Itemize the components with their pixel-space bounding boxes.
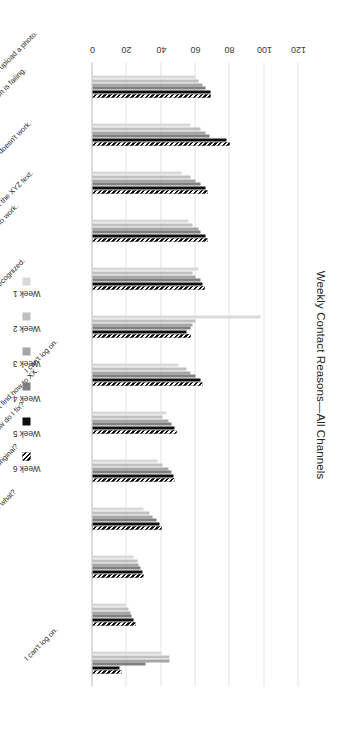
bar xyxy=(92,79,198,82)
bar-group xyxy=(92,62,298,110)
legend-item[interactable]: Week 1 xyxy=(12,277,40,298)
bar xyxy=(92,182,200,185)
bar xyxy=(92,127,200,130)
legend-label: Week 1 xyxy=(12,289,40,298)
value-tick-label: 120 xyxy=(290,44,305,54)
bar-group xyxy=(92,110,298,158)
bar xyxy=(92,555,133,558)
bar xyxy=(92,670,121,673)
legend-swatch-icon xyxy=(22,417,30,425)
bar xyxy=(92,622,135,625)
legend-label: Week 4 xyxy=(12,394,40,403)
bar-group xyxy=(92,398,298,446)
legend-swatch-icon xyxy=(22,382,30,390)
bar xyxy=(92,175,190,178)
bar-group xyxy=(92,542,298,590)
bar xyxy=(92,611,130,614)
chart-title: Weekly Contact Reasons—All Channels xyxy=(314,0,326,749)
legend-item[interactable]: Week 6 xyxy=(12,452,40,473)
bar xyxy=(92,511,149,514)
legend-label: Week 2 xyxy=(12,324,40,333)
bar xyxy=(92,134,209,137)
bar xyxy=(92,430,176,433)
bar xyxy=(92,651,161,654)
bar xyxy=(92,378,200,381)
legend-item[interactable]: Week 2 xyxy=(12,312,40,333)
bar xyxy=(92,271,192,274)
legend-swatch-icon xyxy=(22,277,30,285)
bar xyxy=(92,526,161,529)
bar xyxy=(92,467,168,470)
bar xyxy=(92,666,119,669)
bar xyxy=(92,419,168,422)
bar xyxy=(92,607,128,610)
bar-group xyxy=(92,158,298,206)
legend-swatch-icon xyxy=(22,452,30,460)
bar xyxy=(92,219,188,222)
bar xyxy=(92,566,140,569)
bar xyxy=(92,223,192,226)
bar xyxy=(92,459,157,462)
bar xyxy=(92,367,186,370)
bar xyxy=(92,230,200,233)
legend-item[interactable]: Week 5 xyxy=(12,417,40,438)
legend-swatch-icon xyxy=(22,347,30,355)
bar xyxy=(92,426,174,429)
legend-item[interactable]: Week 4 xyxy=(12,382,40,403)
bar xyxy=(92,371,190,374)
bar xyxy=(92,83,202,86)
bar xyxy=(92,94,210,97)
bar xyxy=(92,563,138,566)
bar xyxy=(92,278,200,281)
bar xyxy=(92,507,144,510)
bar xyxy=(92,515,152,518)
bar-group xyxy=(92,350,298,398)
bar-group xyxy=(92,206,298,254)
bar xyxy=(92,374,195,377)
bar xyxy=(92,315,260,318)
value-tick-label: 100 xyxy=(256,44,271,54)
bar xyxy=(92,179,195,182)
bar xyxy=(92,330,186,333)
bar xyxy=(92,142,229,145)
legend-item[interactable]: Week 3 xyxy=(12,347,40,368)
bar-group xyxy=(92,302,298,350)
bar-group xyxy=(92,446,298,494)
value-tick-label: 60 xyxy=(190,44,200,54)
bar xyxy=(92,326,190,329)
bar xyxy=(92,655,169,658)
bar xyxy=(92,275,195,278)
legend-label: Week 6 xyxy=(12,464,40,473)
bar xyxy=(92,603,125,606)
bar xyxy=(92,186,205,189)
bar xyxy=(92,363,178,366)
bar xyxy=(92,570,142,573)
bar xyxy=(92,662,145,665)
bar xyxy=(92,559,137,562)
chart-legend: Week 1Week 2Week 3Week 4Week 5Week 6 xyxy=(12,0,40,749)
bar xyxy=(92,323,192,326)
bar xyxy=(92,522,159,525)
legend-label: Week 5 xyxy=(12,429,40,438)
bar-group xyxy=(92,590,298,638)
bar xyxy=(92,267,198,270)
bar xyxy=(92,470,171,473)
chart-canvas: Weekly Contact Reasons—All Channels 0204… xyxy=(0,0,340,749)
bar xyxy=(92,478,174,481)
value-tick-label: 20 xyxy=(121,44,131,54)
value-tick-label: 40 xyxy=(156,44,166,54)
plot-area xyxy=(92,62,298,686)
bar xyxy=(92,190,207,193)
bar xyxy=(92,286,204,289)
bar xyxy=(92,227,198,230)
bar-group xyxy=(92,638,298,686)
value-tick-label: 0 xyxy=(89,44,94,54)
bar xyxy=(92,234,205,237)
bar xyxy=(92,238,207,241)
bar xyxy=(92,659,169,662)
value-axis-ticks: 020406080100120 xyxy=(92,0,298,60)
bar xyxy=(92,131,205,134)
bar xyxy=(92,282,202,285)
bar xyxy=(92,574,144,577)
bar-group xyxy=(92,494,298,542)
